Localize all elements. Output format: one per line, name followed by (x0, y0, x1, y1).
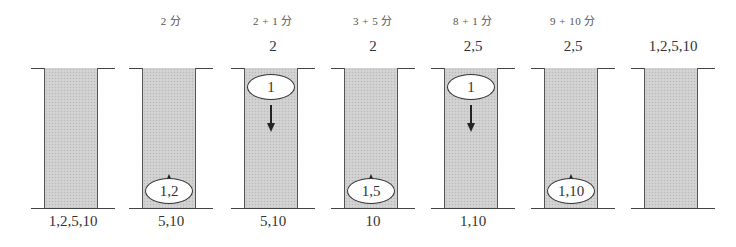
step-time-label: 2 + 1 分 (231, 12, 315, 28)
far-side-people: 2,5 (431, 38, 515, 55)
crossing-group-oval: 1,5 (347, 178, 395, 204)
near-side-people: 1,2,5,10 (21, 213, 125, 230)
near-bank-line (631, 208, 715, 209)
step-panel-2: 2 分 1,2 5,10 (129, 0, 213, 247)
crossing-group-oval: 1 (247, 74, 295, 100)
near-bank-line (31, 208, 115, 209)
near-bank-line (331, 208, 415, 209)
far-side-people: 2 (331, 38, 415, 55)
near-side-people: 5,10 (119, 213, 223, 230)
far-side-people: 2 (231, 38, 315, 55)
step-panel-3: 2 + 1 分 2 1 5,10 (231, 0, 315, 247)
bridge: 1,5 (344, 68, 398, 208)
bridge (44, 68, 98, 208)
step-time-label: 2 分 (129, 12, 213, 28)
near-bank-line (531, 208, 615, 209)
step-panel-1: 1,2,5,10 (31, 0, 115, 247)
near-side-people: 10 (321, 213, 425, 230)
step-panel-7: 1,2,5,10 (631, 0, 715, 247)
bridge (644, 68, 698, 208)
crossing-group-oval: 1,2 (145, 178, 193, 204)
near-bank-line (231, 208, 315, 209)
step-panel-5: 8 + 1 分 2,5 1 1,10 (431, 0, 515, 247)
bridge-crossing-diagram: 1,2,5,10 2 分 1,2 5,10 2 + 1 分 2 1 5,10 3… (0, 0, 736, 247)
near-side-people: 1,10 (421, 213, 525, 230)
step-time-label: 9 + 10 分 (531, 12, 615, 28)
step-time-label: 3 + 5 分 (331, 12, 415, 28)
far-side-people: 2,5 (531, 38, 615, 55)
step-panel-4: 3 + 5 分 2 1,5 10 (331, 0, 415, 247)
bridge: 1,2 (142, 68, 196, 208)
step-time-label: 8 + 1 分 (431, 12, 515, 28)
crossing-group-oval: 1 (447, 74, 495, 100)
step-panel-6: 9 + 10 分 2,5 1,10 (531, 0, 615, 247)
crossing-group-oval: 1,10 (547, 178, 595, 204)
near-bank-line (431, 208, 515, 209)
far-side-people: 1,2,5,10 (631, 38, 715, 55)
bridge: 1 (244, 68, 298, 208)
bridge: 1 (444, 68, 498, 208)
near-side-people: 5,10 (221, 213, 325, 230)
bridge: 1,10 (544, 68, 598, 208)
near-bank-line (129, 208, 213, 209)
